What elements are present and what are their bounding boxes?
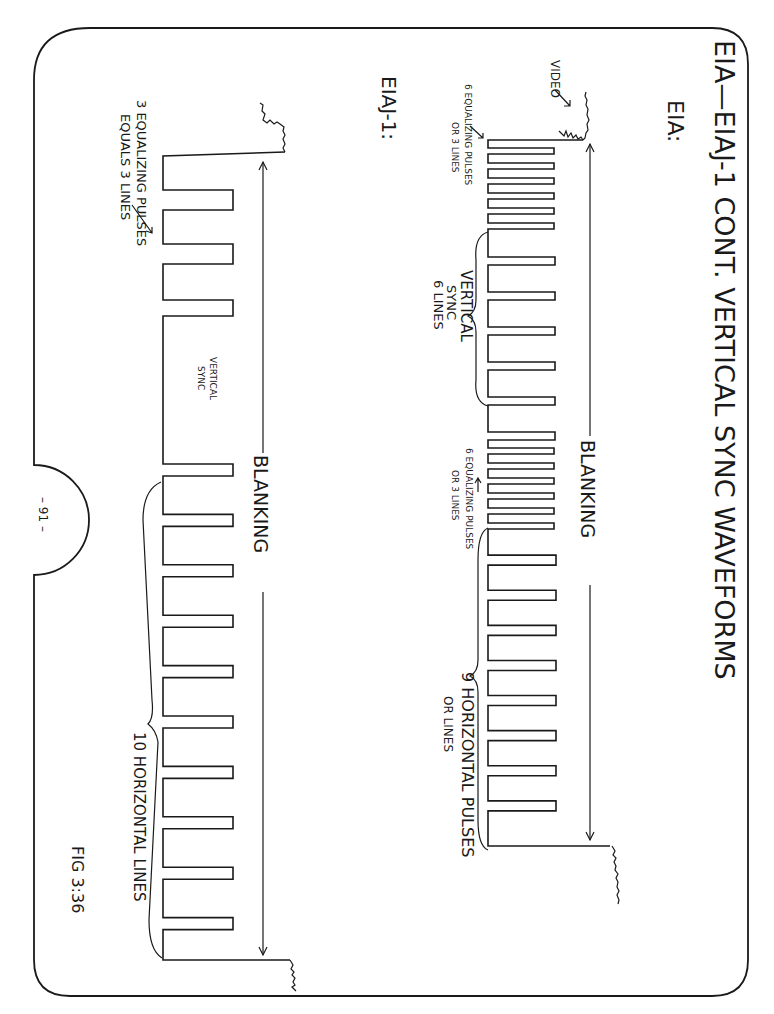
diagram-canvas: EIA—EIAJ-1 CONT. VERTICAL SYNC WAVEFORMS… [0, 0, 774, 1014]
eiaj1-horizontal-note: 10 HORIZONTAL LINES [130, 732, 148, 901]
eiaj1-waveform [163, 103, 296, 991]
eia-pre-eq-note-1: 6 EQUALIZING PULSES [463, 84, 473, 186]
eia-post-eq-note-2: OR 3 LINES [450, 470, 460, 521]
eiaj1-blanking-label: BLANKING [250, 455, 272, 553]
eia-post-eq-arrow [475, 478, 481, 492]
eiaj1-vsync-label-2: SYNC [196, 366, 206, 390]
eia-horizontal-note-2: OR LINES [441, 696, 455, 752]
page-number: – 91 – [36, 497, 50, 532]
eiaj1-eq-note-1: 3 EQUALIZING PULSES [134, 100, 149, 246]
eiaj1-label: EIAJ-1: [377, 76, 401, 140]
eia-post-eq-note-1: 6 EQUALIZING PULSES [464, 448, 474, 550]
eiaj1-sync-pulses [163, 152, 290, 960]
figure-label: FIG 3:36 [68, 846, 87, 913]
eia-video-noise-bottom [612, 846, 619, 904]
eiaj1-eq-note-2: EQUALS 3 LINES [118, 114, 133, 220]
eia-label: EIA: [663, 100, 688, 142]
page-title: EIA—EIAJ-1 CONT. VERTICAL SYNC WAVEFORMS [709, 40, 740, 680]
eiaj1-blanking-arrow [259, 162, 267, 955]
eiaj1-video-noise-bottom [290, 960, 296, 991]
eia-blanking-label: BLANKING [577, 440, 599, 538]
eiaj1-vsync-label-1: VERTICAL [208, 357, 218, 400]
eia-horizontal-note-1: 9 HORIZONTAL PULSES [458, 672, 477, 857]
eia-pre-eq-note-2: OR 3 LINES [450, 122, 460, 173]
eiaj1-video-noise-top [260, 103, 285, 152]
eia-video-label: VIDEO [548, 60, 562, 98]
eia-vsync-label-3: 6 LINES [431, 280, 446, 330]
